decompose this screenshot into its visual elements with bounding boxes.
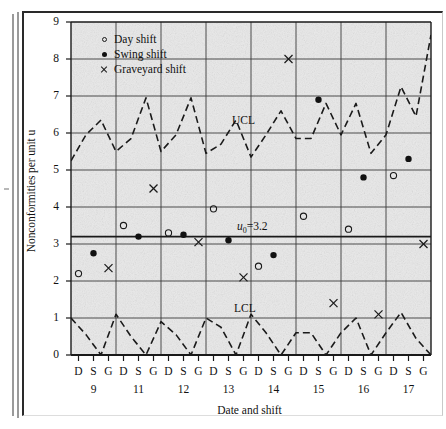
y-tick-label-1: 1 [43,312,59,323]
x-tick-label-date-13: 13 [212,383,246,395]
page-root: 0123456789 DSGDSGDSGDSGDSGDSGDSGDSG91112… [0,0,446,429]
y-axis-title-text: Nonconformities per unit u [25,130,37,252]
y-axis-title: Nonconformities per unit u [25,91,37,291]
center-line-value: =3.2 [247,220,268,232]
x-tick-label-date-16: 16 [347,383,381,395]
y-axis-ticks [66,22,71,355]
x-tick-label-date-9: 9 [77,383,111,395]
cross-icon [96,66,112,74]
ucl-annotation: UCL [232,114,255,126]
center-line-annotation: u0=3.2 [237,220,268,235]
y-tick-label-4: 4 [43,201,59,212]
data-point-swing-shift-16 [360,174,366,180]
legend-item-graveyard-shift: Graveyard shift [96,62,186,77]
y-tick-label-8: 8 [43,53,59,64]
x-tick-label-date-17: 17 [392,383,426,395]
data-point-swing-shift-14 [270,252,276,258]
open-circle-icon [96,37,112,42]
y-tick-label-2: 2 [43,275,59,286]
y-tick-label-7: 7 [43,90,59,101]
data-point-swing-shift-13 [225,237,231,243]
y-tick-label-5: 5 [43,164,59,175]
lcl-annotation: LCL [234,302,256,314]
y-tick-label-0: 0 [43,349,59,360]
x-tick-label-date-14: 14 [257,383,291,395]
y-tick-label-9: 9 [43,16,59,27]
data-point-swing-shift-9 [90,250,96,256]
filled-circle-icon [96,52,112,57]
legend-item-swing-shift: Swing shift [96,47,186,62]
legend-item-day-shift: Day shift [96,32,186,47]
x-tick-label-shift-23: G [415,365,433,377]
y-tick-label-3: 3 [43,238,59,249]
data-point-swing-shift-15 [315,97,321,103]
x-tick-label-date-15: 15 [302,383,336,395]
y-tick-label-6: 6 [43,127,59,138]
ucl-annotation-text: UCL [232,114,255,126]
lcl-annotation-text: LCL [234,302,256,314]
legend-label-graveyard-shift: Graveyard shift [112,62,186,77]
legend: Day shift Swing shift Graveyard shift [96,32,186,77]
legend-label-swing-shift: Swing shift [112,47,167,62]
x-axis-title-text: Date and shift [217,404,282,416]
x-axis-title: Date and shift [62,404,437,416]
x-tick-label-date-12: 12 [167,383,201,395]
data-point-swing-shift-17 [405,156,411,162]
x-tick-label-date-11: 11 [122,383,156,395]
legend-label-day-shift: Day shift [112,32,156,47]
data-point-swing-shift-11 [135,233,141,239]
data-point-swing-shift-12 [180,232,186,238]
